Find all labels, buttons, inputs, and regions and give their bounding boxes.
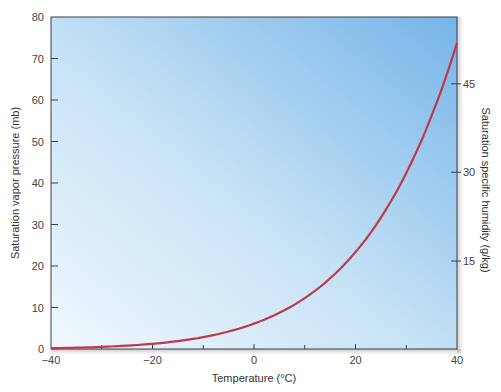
y-tick-label: 40 (32, 177, 44, 189)
x-tick-label: 20 (349, 354, 361, 366)
x-axis-title: Temperature (°C) (212, 372, 296, 384)
y2-tick-label: 30 (463, 166, 475, 178)
y-tick-label: 70 (32, 53, 44, 65)
plot-shadow-right (457, 17, 466, 353)
y-tick-label: 20 (32, 260, 44, 272)
chart: 01020304050607080 153045 −40−2002040 Tem… (0, 0, 501, 392)
y-tick-label: 60 (32, 94, 44, 106)
y-left-axis-title: Saturation vapor pressure (mb) (9, 107, 21, 259)
plot-area (51, 17, 457, 349)
y-tick-label: 80 (32, 11, 44, 23)
x-tick-label: 0 (251, 354, 257, 366)
x-tick-label: −40 (42, 354, 61, 366)
y-tick-label: 30 (32, 219, 44, 231)
y-right-axis-title: Saturation specific humidity (g/kg) (480, 107, 492, 272)
x-tick-label: −20 (143, 354, 162, 366)
y-tick-label: 10 (32, 302, 44, 314)
y2-tick-label: 15 (463, 255, 475, 267)
x-tick-label: 40 (451, 354, 463, 366)
y2-tick-label: 45 (463, 78, 475, 90)
y-tick-label: 50 (32, 136, 44, 148)
